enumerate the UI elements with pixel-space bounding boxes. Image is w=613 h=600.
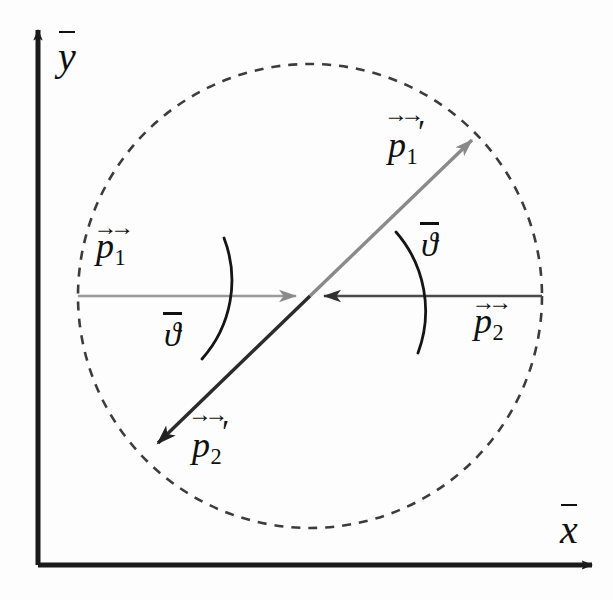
theta-upper-symbol: ϑ [421, 222, 438, 262]
x-axis-overbar [561, 504, 578, 507]
vector-p2prime-letter: p [192, 427, 210, 463]
p2prime-double-arrow-accent: →→ [188, 403, 221, 427]
vector-p2prime-label: →→ p2′ [192, 415, 229, 468]
theta-lower-symbol: ϑ [164, 312, 181, 352]
theta-lower-arc [202, 238, 232, 359]
theta-lower-label: ϑ [164, 312, 181, 352]
x-axis-label: x [560, 503, 578, 550]
p1-double-arrow-accent: →→ [94, 216, 127, 240]
p1prime-double-arrow-accent: →→ [384, 103, 417, 127]
y-axis-label: y [58, 30, 76, 77]
physics-figure: y x →→ p1 →→ p2 →→ p1′ →→ p2′ [0, 0, 613, 600]
p2-double-arrow-accent: →→ [472, 291, 505, 315]
figure-canvas [0, 0, 613, 600]
theta-upper-overbar [420, 222, 439, 225]
y-axis-label-text: y [58, 30, 76, 77]
vector-p2-subscript: 2 [492, 320, 503, 345]
y-axis-overbar [59, 31, 76, 34]
vector-p2prime-subscript: 2 [210, 444, 221, 469]
vector-p2-label: →→ p2 [474, 303, 504, 344]
coordinate-axes [38, 30, 592, 565]
theta-lower-overbar [163, 312, 182, 315]
vector-p1-subscript: 1 [114, 245, 125, 270]
vector-p2prime-prime-mark: ′ [222, 413, 229, 450]
vector-p1prime-letter: p [388, 127, 406, 163]
x-axis-label-text: x [560, 503, 578, 550]
vector-p1prime-prime-mark: ′ [418, 113, 425, 150]
vector-p1prime-label: →→ p1′ [388, 115, 425, 168]
vector-p1-label: →→ p1 [96, 228, 126, 269]
vector-p1prime-subscript: 1 [406, 144, 417, 169]
theta-upper-label: ϑ [421, 222, 438, 262]
